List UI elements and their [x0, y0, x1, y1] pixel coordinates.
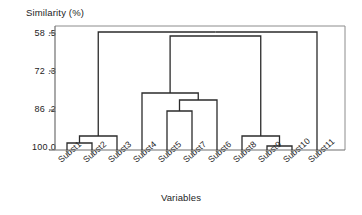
dendrogram-figure: Similarity (%) 58 .5 72 .3 86 .2 100.0 S… [0, 0, 362, 215]
merge-link-m7 [242, 136, 280, 150]
merge-link-m8 [170, 36, 261, 136]
merge-link-m4 [180, 100, 218, 150]
merge-link-m9 [98, 32, 215, 136]
merge-link-m5 [142, 93, 198, 150]
dendrogram-links [67, 32, 317, 150]
merge-link-m10 [215, 32, 317, 150]
dendrogram-plot [0, 0, 362, 215]
y-axis-ticks [49, 33, 55, 150]
merge-link-m1 [67, 143, 92, 150]
merge-link-m3 [167, 111, 192, 150]
x-axis-ticks [67, 150, 317, 155]
